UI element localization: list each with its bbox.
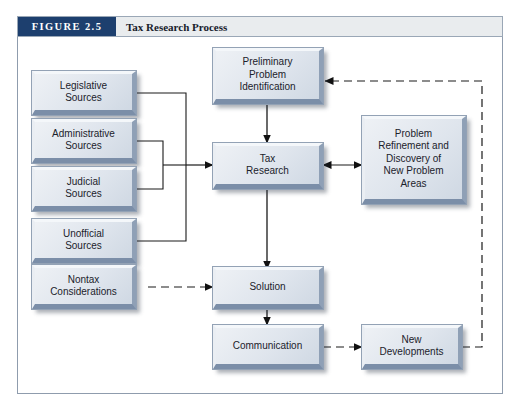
node-unofficial-sources[interactable]: Unofficial Sources <box>32 219 136 263</box>
node-administrative-sources[interactable]: Administrative Sources <box>32 119 136 163</box>
figure-number-badge: FIGURE 2.5 <box>18 17 116 36</box>
figure-2-5-tax-research-process: FIGURE 2.5 Tax Research Process <box>0 0 521 411</box>
node-preliminary-problem-identification-label: Preliminary Problem Identification <box>236 56 298 94</box>
node-solution-label: Solution <box>246 281 288 294</box>
node-communication-label: Communication <box>230 340 305 353</box>
node-judicial-sources-label: Judicial Sources <box>62 176 105 201</box>
diagram-canvas: Legislative Sources Administrative Sourc… <box>17 37 503 394</box>
node-problem-refinement[interactable]: Problem Refinement and Discovery of New … <box>362 116 466 204</box>
node-tax-research-label: Tax Research <box>243 153 292 178</box>
node-solution[interactable]: Solution <box>213 267 323 309</box>
node-problem-refinement-label: Problem Refinement and Discovery of New … <box>375 128 452 191</box>
node-preliminary-problem-identification[interactable]: Preliminary Problem Identification <box>213 48 323 104</box>
figure-title: Tax Research Process <box>116 17 502 36</box>
node-judicial-sources[interactable]: Judicial Sources <box>32 167 136 211</box>
figure-header: FIGURE 2.5 Tax Research Process <box>17 16 503 37</box>
node-administrative-sources-label: Administrative Sources <box>49 128 118 153</box>
node-tax-research[interactable]: Tax Research <box>213 143 323 189</box>
node-communication[interactable]: Communication <box>213 325 323 369</box>
node-legislative-sources-label: Legislative Sources <box>57 80 110 105</box>
node-new-developments[interactable]: New Developments <box>362 325 462 369</box>
edge-sources-bracket <box>136 93 186 241</box>
node-nontax-considerations[interactable]: Nontax Considerations <box>32 265 136 309</box>
node-unofficial-sources-label: Unofficial Sources <box>60 228 107 253</box>
node-nontax-considerations-label: Nontax Considerations <box>47 274 120 299</box>
node-new-developments-label: New Developments <box>377 334 447 359</box>
node-legislative-sources[interactable]: Legislative Sources <box>32 71 136 115</box>
